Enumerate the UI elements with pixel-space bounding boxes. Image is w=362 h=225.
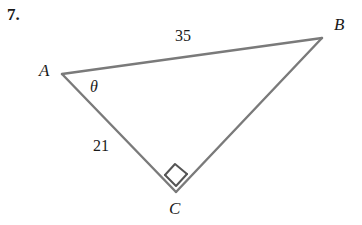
segment-bc: [176, 38, 322, 192]
vertex-label-a: A: [39, 62, 49, 79]
segment-ac: [62, 74, 176, 192]
vertex-label-b: B: [334, 16, 344, 33]
geometry-figure: 7. A B C 35 21 θ: [0, 0, 362, 225]
segment-ab: [62, 38, 322, 74]
side-length-ac: 21: [93, 138, 109, 154]
triangle-outline: [62, 38, 322, 192]
vertex-label-c: C: [169, 200, 180, 217]
angle-label-theta: θ: [90, 79, 98, 95]
side-length-ab: 35: [175, 28, 191, 44]
